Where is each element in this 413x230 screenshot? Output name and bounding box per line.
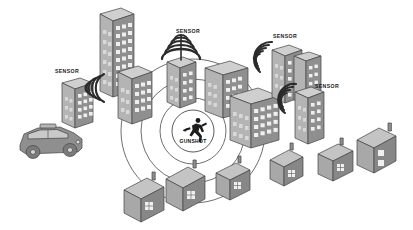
sensor-top-right-waves [254, 42, 272, 72]
tower-left-a [118, 66, 152, 124]
sensor-label-top-right: SENSOR [273, 33, 297, 39]
sensor-top-center-dome [162, 35, 200, 60]
illustration-canvas: SENSOR SENSOR SENSOR SENSOR GUNSHOT [0, 0, 413, 230]
light-bar-icon [40, 124, 56, 128]
house-right-3 [357, 123, 396, 173]
sensor-label-top-center: SENSOR [176, 28, 200, 34]
tower-sensor-center [167, 57, 196, 108]
police-car [20, 124, 82, 159]
sensor-label-right: SENSOR [315, 83, 339, 89]
house-bottom-left [124, 172, 164, 222]
gunshot-label: GUNSHOT [173, 138, 213, 144]
house-bottom-right [216, 156, 250, 200]
house-right-2 [318, 138, 353, 181]
house-bottom-center [166, 160, 205, 211]
cityscape-diagram [0, 0, 413, 230]
tower-right-c [295, 87, 324, 144]
sensor-label-left: SENSOR [55, 68, 79, 74]
house-right-1 [270, 143, 303, 186]
